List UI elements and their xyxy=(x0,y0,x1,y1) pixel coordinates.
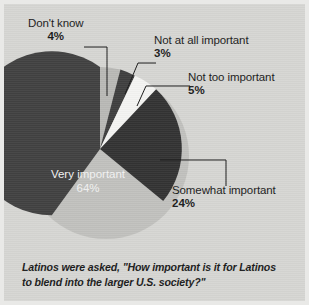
label-dont-know-pct: 4% xyxy=(28,30,84,43)
caption-line-1: Latinos were asked, "How important is it… xyxy=(22,260,287,275)
label-very-important-pct: 64% xyxy=(34,181,142,195)
label-somewhat-important: Somewhat important 24% xyxy=(172,184,276,210)
label-not-too-important-pct: 5% xyxy=(188,84,275,97)
label-dont-know-name: Don't know xyxy=(28,17,84,30)
chart-caption: Latinos were asked, "How important is it… xyxy=(22,260,287,291)
label-not-at-all-important-pct: 3% xyxy=(154,47,249,60)
label-dont-know: Don't know 4% xyxy=(28,17,84,43)
caption-line-2: to blend into the larger U.S. society?" xyxy=(22,275,287,290)
label-very-important: Very important 64% xyxy=(34,167,142,196)
label-not-too-important-name: Not too important xyxy=(188,71,275,84)
figure-page: Don't know 4% Not at all important 3% No… xyxy=(0,0,309,305)
label-somewhat-important-name: Somewhat important xyxy=(172,184,276,197)
label-very-important-name: Very important xyxy=(34,167,142,181)
chart-plate: Don't know 4% Not at all important 3% No… xyxy=(4,4,305,301)
label-not-at-all-important-name: Not at all important xyxy=(154,34,249,47)
label-not-too-important: Not too important 5% xyxy=(188,71,275,97)
label-not-at-all-important: Not at all important 3% xyxy=(154,34,249,60)
label-somewhat-important-pct: 24% xyxy=(172,197,276,210)
